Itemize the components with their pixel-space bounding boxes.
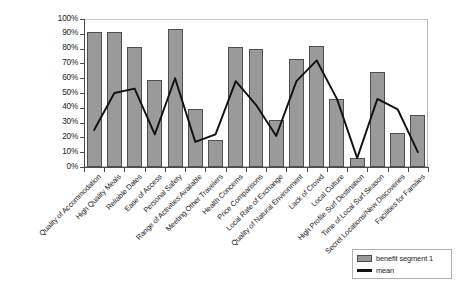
- x-axis-tick-mark: [145, 168, 146, 172]
- x-axis-line: [84, 167, 429, 168]
- y-axis-tick-label: 100%: [38, 15, 78, 23]
- y-axis-tick-label: 40%: [38, 103, 78, 111]
- mean-line-path: [94, 60, 418, 158]
- legend-label-mean: mean: [376, 267, 394, 275]
- x-axis-tick-mark: [84, 168, 85, 172]
- line-series-mean: [84, 19, 428, 167]
- y-axis-tick-label: 90%: [38, 29, 78, 37]
- x-axis-tick-mark: [347, 168, 348, 172]
- y-axis-tick-label: 0%: [38, 163, 78, 171]
- legend-item-mean: mean: [357, 265, 447, 276]
- y-axis-tick-label: 20%: [38, 133, 78, 141]
- x-axis-tick-mark: [124, 168, 125, 172]
- x-axis-tick-mark: [367, 168, 368, 172]
- y-axis-tick-label: 30%: [38, 118, 78, 126]
- legend-item-benefit-segment-1: benefit segment 1: [357, 253, 447, 264]
- x-axis-tick-mark: [246, 168, 247, 172]
- y-axis-tick-label: 80%: [38, 44, 78, 52]
- x-axis-tick-mark: [226, 168, 227, 172]
- legend-bar-swatch-icon: [357, 255, 372, 262]
- x-axis-tick-mark: [408, 168, 409, 172]
- x-axis-tick-mark: [428, 168, 429, 172]
- x-axis-tick-mark: [165, 168, 166, 172]
- x-axis-tick-mark: [104, 168, 105, 172]
- y-axis-tick-label: 60%: [38, 74, 78, 82]
- chart-container: 100%90%80%70%60%50%40%30%20%10%0% Qualit…: [0, 0, 460, 294]
- legend-label-benefit-segment-1: benefit segment 1: [376, 255, 433, 263]
- x-axis-tick-mark: [266, 168, 267, 172]
- y-axis-tick-label: 50%: [38, 89, 78, 97]
- x-axis-tick-mark: [327, 168, 328, 172]
- y-axis-tick-label: 10%: [38, 148, 78, 156]
- x-axis-tick-mark: [307, 168, 308, 172]
- legend-line-swatch-icon: [357, 269, 372, 272]
- x-axis-tick-mark: [185, 168, 186, 172]
- x-axis-tick-mark: [388, 168, 389, 172]
- x-axis-tick-mark: [205, 168, 206, 172]
- x-axis-tick-mark: [286, 168, 287, 172]
- chart-legend: benefit segment 1 mean: [352, 249, 452, 279]
- y-axis-tick-label: 70%: [38, 59, 78, 67]
